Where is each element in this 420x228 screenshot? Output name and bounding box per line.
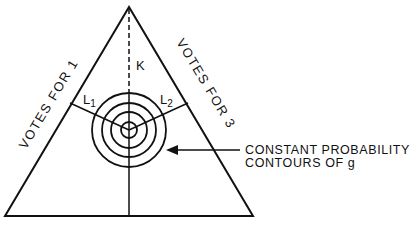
label-k: K — [136, 58, 145, 73]
voting-triangle-diagram: K L1 L2 VOTES FOR 1 VOTES FOR 3 CONSTANT… — [0, 0, 420, 228]
label-l1: L1 — [83, 92, 96, 109]
label-contours-line2: CONTOURS OF g — [245, 156, 355, 170]
label-l2: L2 — [160, 92, 173, 109]
label-contours-line1: CONSTANT PROBABILITY — [245, 143, 410, 157]
arrowhead-icon — [166, 145, 178, 155]
label-votes-for-3: VOTES FOR 3 — [173, 36, 239, 132]
